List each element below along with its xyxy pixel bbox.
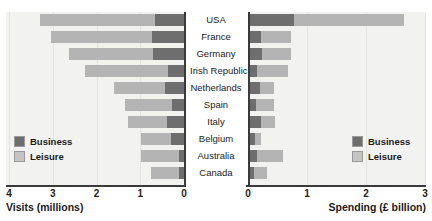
bar-segment-leisure xyxy=(261,31,291,43)
category-label: France xyxy=(190,31,242,43)
legend-swatch-leisure-icon xyxy=(14,151,25,162)
bar-row xyxy=(248,31,426,43)
bar-segment-business xyxy=(165,82,184,94)
bar-segment-business xyxy=(152,31,184,43)
bar-row xyxy=(248,82,426,94)
spending-legend: Business Leisure xyxy=(352,136,410,166)
bar-row xyxy=(6,82,184,94)
bar-row xyxy=(6,48,184,60)
bar-segment-leisure xyxy=(69,48,152,60)
bar-segment-business xyxy=(153,48,185,60)
bar-row xyxy=(248,167,426,179)
bar-segment-leisure xyxy=(85,65,168,77)
bar-segment-leisure xyxy=(260,82,274,94)
bar-segment-business xyxy=(248,14,294,26)
bar-segment-business xyxy=(167,116,185,128)
visits-axis-title: Visits (millions) xyxy=(6,201,83,213)
spending-panel: Spending (£ billion) 0123 xyxy=(242,0,432,221)
spending-axis-rule xyxy=(246,185,426,187)
bar-segment-business xyxy=(172,99,184,111)
bar-row xyxy=(248,116,426,128)
axis-tick-label: 1 xyxy=(137,188,143,199)
legend-swatch-business-icon xyxy=(352,136,363,147)
bar-row xyxy=(6,99,184,111)
bar-segment-leisure xyxy=(261,116,275,128)
bar-segment-leisure xyxy=(257,150,282,162)
axis-tick-label: 0 xyxy=(245,188,251,199)
category-label: USA xyxy=(190,14,242,26)
axis-tick-label: 2 xyxy=(94,188,100,199)
bar-segment-leisure xyxy=(40,14,156,26)
axis-tick-label: 2 xyxy=(363,188,369,199)
bar-row xyxy=(6,167,184,179)
axis-tick-label: 3 xyxy=(50,188,56,199)
legend-swatch-business-icon xyxy=(14,136,25,147)
bar-segment-leisure xyxy=(128,116,167,128)
legend-label-business: Business xyxy=(368,136,410,147)
bar-row xyxy=(6,65,184,77)
axis-tick-label: 4 xyxy=(6,188,12,199)
category-label: Netherlands xyxy=(190,82,242,94)
bar-segment-leisure xyxy=(255,133,261,145)
bar-segment-leisure xyxy=(262,48,291,60)
visits-legend: Business Leisure xyxy=(14,136,72,166)
bar-row xyxy=(248,99,426,111)
spending-axis-spine xyxy=(248,12,250,185)
axis-tick-label: 0 xyxy=(181,188,187,199)
visits-axis-spine xyxy=(184,12,186,185)
legend-label-business: Business xyxy=(30,136,72,147)
legend-label-leisure: Leisure xyxy=(30,151,64,162)
bar-segment-leisure xyxy=(141,133,171,145)
bar-segment-leisure xyxy=(254,167,267,179)
bar-segment-leisure xyxy=(256,99,274,111)
bar-segment-leisure xyxy=(151,167,179,179)
bar-row xyxy=(6,31,184,43)
visits-axis-rule xyxy=(6,185,186,187)
axis-tick-label: 3 xyxy=(422,188,428,199)
bar-segment-business xyxy=(155,14,184,26)
bar-segment-leisure xyxy=(294,14,404,26)
category-label: Spain xyxy=(190,99,242,111)
bar-segment-business xyxy=(171,133,184,145)
category-label: Canada xyxy=(190,167,242,179)
legend-item-leisure: Leisure xyxy=(352,151,410,162)
bar-segment-leisure xyxy=(114,82,165,94)
bar-row xyxy=(6,14,184,26)
bar-segment-leisure xyxy=(141,150,179,162)
bar-segment-leisure xyxy=(51,31,152,43)
bar-segment-business xyxy=(168,65,184,77)
bar-segment-leisure xyxy=(257,65,288,77)
bar-row xyxy=(6,116,184,128)
legend-item-business: Business xyxy=(352,136,410,147)
dual-bar-chart-figure: Visits (millions) 43210 Spending (£ bill… xyxy=(0,0,432,221)
bar-row xyxy=(248,65,426,77)
bar-segment-business xyxy=(248,48,262,60)
bar-row xyxy=(248,14,426,26)
category-label: Australia xyxy=(190,150,242,162)
legend-label-leisure: Leisure xyxy=(368,151,402,162)
category-label: Germany xyxy=(190,48,242,60)
spending-axis-title: Spending (£ billion) xyxy=(329,201,426,213)
bar-segment-leisure xyxy=(125,99,172,111)
category-label-column: USAFranceGermanyIrish RepublicNetherland… xyxy=(190,12,242,185)
visits-panel: Visits (millions) 43210 xyxy=(0,0,190,221)
axis-tick-label: 1 xyxy=(304,188,310,199)
category-label: Irish Republic xyxy=(190,65,242,77)
category-label: Italy xyxy=(190,116,242,128)
legend-item-business: Business xyxy=(14,136,72,147)
bar-row xyxy=(248,48,426,60)
category-label: Belgium xyxy=(190,133,242,145)
legend-swatch-leisure-icon xyxy=(352,151,363,162)
legend-item-leisure: Leisure xyxy=(14,151,72,162)
